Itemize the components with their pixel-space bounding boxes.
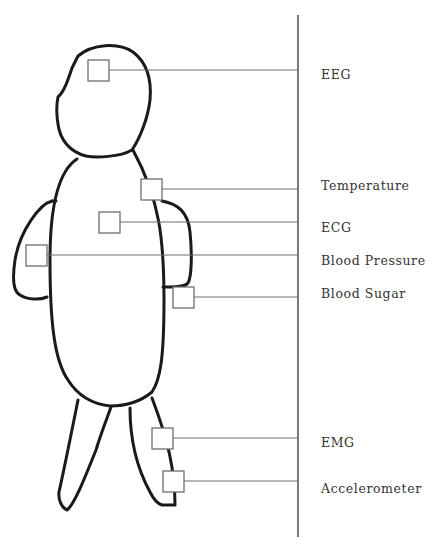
label-blood-sugar: Blood Sugar <box>321 287 406 301</box>
label-blood-pressure: Blood Pressure <box>321 254 426 268</box>
accelerometer-sensor <box>163 471 184 492</box>
blood-sugar-sensor <box>173 287 194 308</box>
label-emg: EMG <box>321 436 355 450</box>
blood-pressure-sensor <box>26 245 47 266</box>
right-arm-outline <box>162 201 191 287</box>
temperature-sensor <box>141 179 162 200</box>
label-temperature: Temperature <box>321 179 410 193</box>
body-sensor-diagram <box>0 0 447 549</box>
label-accelerometer: Accelerometer <box>321 482 422 496</box>
eeg-sensor <box>88 60 109 81</box>
label-ecg: ECG <box>321 221 351 235</box>
label-eeg: EEG <box>321 68 351 82</box>
emg-sensor <box>152 428 173 449</box>
left-leg-outline <box>59 400 111 510</box>
ecg-sensor <box>99 212 120 233</box>
